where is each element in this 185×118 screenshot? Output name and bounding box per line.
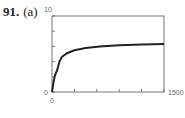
data-curve bbox=[52, 44, 164, 92]
chart: 10 0 0 1500 bbox=[0, 0, 185, 118]
axis-ticks bbox=[52, 16, 164, 92]
plot-frame bbox=[52, 16, 164, 92]
y-max-label: 10 bbox=[44, 6, 52, 13]
x-min-label: 0 bbox=[50, 97, 54, 104]
x-max-label: 1500 bbox=[168, 89, 184, 96]
y-min-label: 0 bbox=[44, 89, 48, 96]
